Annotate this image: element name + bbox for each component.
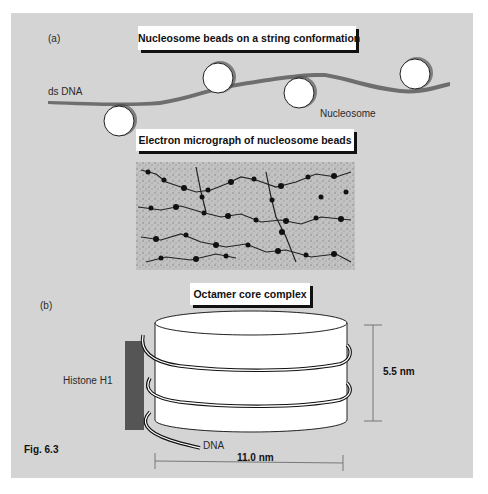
height-dimension: [364, 325, 382, 421]
figure-caption: Fig. 6.3: [24, 444, 58, 455]
height-label: 5.5 nm: [383, 366, 415, 377]
octamer-core-diagram: [0, 0, 488, 494]
octamer-cylinder: [155, 323, 347, 432]
dna-label: DNA: [203, 440, 224, 451]
width-label: 11.0 nm: [237, 452, 274, 463]
histone-h1-bar: [125, 341, 144, 430]
octamer-cylinder-top: [155, 311, 347, 335]
